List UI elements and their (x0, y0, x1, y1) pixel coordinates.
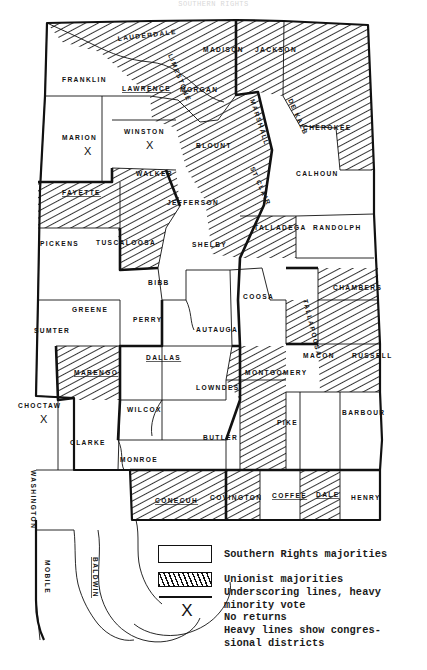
county-label-tuscaloosa: TUSCALOOSA (96, 239, 156, 246)
county-label-autauga: AUTAUGA (196, 326, 238, 333)
county-label-marengo: MARENGO (74, 369, 118, 376)
county-label-dale: DALE (316, 491, 340, 498)
legend-label-southern-rights: Southern Rights majorities (224, 548, 424, 561)
legend-label-unionist: Unionist majorities (224, 573, 424, 586)
county-label-blount: BLOUNT (196, 142, 232, 149)
county-label-russell: RUSSELL (352, 352, 393, 359)
legend-swatch-no-returns-x: X (176, 601, 198, 621)
county-label-jefferson: JEFFERSON (167, 199, 219, 206)
alabama-election-map-figure: SOUTHERN RIGHTS (0, 0, 427, 670)
county-label-madison: MADISON (203, 46, 244, 53)
county-label-choctaw: CHOCTAW (18, 402, 61, 409)
county-label-calhoun: CALHOUN (296, 170, 339, 177)
no-returns-x-icon-choctaw: X (40, 413, 48, 425)
county-label-cherokee: CHEROKEE (303, 124, 352, 131)
county-label-barbour: BARBOUR (342, 409, 386, 416)
county-label-clarke: CLARKE (70, 439, 106, 446)
county-label-covington: COVINGTON (210, 494, 262, 501)
county-label-henry: HENRY (351, 494, 381, 501)
county-label-winston: WINSTON (124, 128, 165, 135)
county-label-randolph: RANDOLPH (313, 224, 362, 231)
county-label-perry: PERRY (133, 316, 162, 323)
no-returns-x-icon-winston: X (146, 139, 154, 151)
county-label-pickens: PICKENS (40, 240, 79, 247)
county-label-coffee: COFFEE (272, 492, 307, 499)
county-label-dallas: DALLAS (146, 354, 181, 361)
legend-label-underscoring: Underscoring lines, heavy minority vote (224, 586, 424, 611)
county-label-bibb: BIBB (148, 279, 170, 286)
county-label-monroe: MONROE (120, 456, 158, 463)
legend-swatch-southern-rights (158, 545, 212, 563)
county-label-sumter: SUMTER (34, 327, 70, 334)
county-label-butler: BUTLER (203, 434, 238, 441)
legend-swatch-unionist (158, 572, 212, 587)
county-label-montgomery: MONTGOMERY (245, 369, 307, 376)
county-label-jackson: JACKSON (255, 46, 297, 53)
legend-swatch-underscore-rule (159, 596, 212, 598)
map-legend: X Southern Rights majorities Unionist ma… (158, 541, 424, 661)
county-label-mobile: MOBILE (44, 560, 51, 594)
county-label-macon: MACON (303, 352, 335, 359)
legend-label-no-returns: No returns (224, 611, 424, 624)
county-label-baldwin: BALDWIN (92, 557, 99, 598)
county-label-marion: MARION (62, 134, 97, 141)
county-label-fayette: FAYETTE (62, 189, 101, 196)
county-label-washington: WASHINGTON (30, 470, 37, 529)
no-returns-x-icon-marion: X (84, 145, 92, 157)
legend-label-heavy-lines: Heavy lines show congres- sional distric… (224, 624, 424, 649)
county-label-shelby: SHELBY (192, 241, 227, 248)
county-label-morgan: MORGAN (180, 86, 218, 93)
county-label-coosa: COOSA (243, 293, 274, 300)
county-label-franklin: FRANKLIN (62, 76, 107, 83)
county-label-lawrence: LAWRENCE (122, 85, 171, 92)
county-label-wilcox: WILCOX (127, 406, 162, 413)
county-label-conecuh: CONECUH (155, 497, 198, 504)
county-label-lowndes: LOWNDES (196, 384, 240, 391)
county-label-talladega: TALLADEGA (254, 224, 307, 231)
county-label-greene: GREENE (72, 306, 108, 313)
county-label-chambers: CHAMBERS (333, 284, 382, 291)
county-label-pike: PIKE (277, 419, 298, 426)
county-label-walker: WALKER (136, 170, 173, 177)
